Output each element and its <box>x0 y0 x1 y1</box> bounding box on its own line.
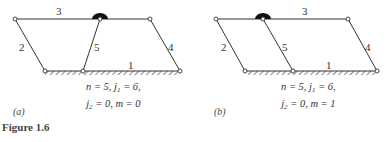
link-label-3: 3 <box>56 5 62 17</box>
joint <box>178 69 182 73</box>
eq-text: = 6, <box>121 81 141 92</box>
link-label-1: 1 <box>128 59 134 71</box>
link-label-1: 1 <box>326 59 332 71</box>
equation-a-line2: j2 = 0, m = 0 <box>86 97 141 114</box>
link-4 <box>348 19 377 71</box>
eq-text: n = 5, j <box>86 81 117 92</box>
eq-text: n = 5, j <box>281 81 312 92</box>
ground-hatch <box>45 71 180 75</box>
panel-label-b: (b) <box>214 106 226 117</box>
link-label-2: 2 <box>19 41 25 53</box>
link-5 <box>263 19 293 71</box>
joint <box>81 69 85 73</box>
link-label-5: 5 <box>282 41 288 53</box>
link-label-4: 4 <box>365 41 371 53</box>
joint <box>291 69 295 73</box>
link-label-5: 5 <box>94 41 100 53</box>
equation-a: n = 5, j1 = 6, j2 = 0, m = 0 <box>86 80 141 114</box>
joint <box>375 69 379 73</box>
equation-b-line2: j2 = 0, m = 1 <box>281 97 336 114</box>
joint <box>346 17 350 21</box>
eq-text: = 0, m = 0 <box>93 98 141 109</box>
panel-b: 1 2 3 4 5 <box>214 5 379 75</box>
panel-a: 1 2 3 4 5 <box>13 5 182 75</box>
eq-text: = 6, <box>316 81 336 92</box>
joint <box>148 17 152 21</box>
link-label-2: 2 <box>221 41 227 53</box>
joint <box>243 69 247 73</box>
ground-hatch <box>245 71 377 75</box>
joint <box>13 17 17 21</box>
joint <box>214 17 218 21</box>
equation-b: n = 5, j1 = 6, j2 = 0, m = 1 <box>281 80 336 114</box>
linkage-diagram: 1 2 3 4 5 1 2 3 4 5 <box>0 0 390 142</box>
figure-caption: Figure 1.6 <box>2 121 49 133</box>
equation-a-line1: n = 5, j1 = 6, <box>86 80 141 97</box>
joint <box>43 69 47 73</box>
equation-b-line1: n = 5, j1 = 6, <box>281 80 336 97</box>
panel-label-a: (a) <box>13 106 25 117</box>
joint <box>98 17 102 21</box>
link-label-3: 3 <box>302 5 308 17</box>
link-4 <box>150 19 180 71</box>
joint <box>261 17 265 21</box>
eq-text: = 0, m = 1 <box>288 98 336 109</box>
link-label-4: 4 <box>168 41 174 53</box>
